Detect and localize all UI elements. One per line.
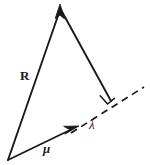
vector-r-shaft [8,10,60,160]
right-angle-marker-icon [100,96,114,104]
triangle-right-side [60,8,111,101]
vector-diagram-figure: R μ λ [0,0,150,165]
label-mean-vector-mu: μ [43,142,50,155]
label-resultant-vector-r: R [20,69,29,82]
arrowhead-up-icon [55,4,64,19]
label-projection-lambda: λ [89,118,95,131]
